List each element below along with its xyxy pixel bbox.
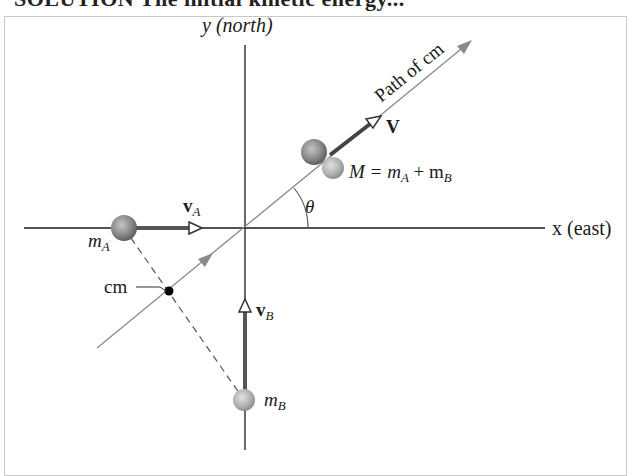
va-label: vA (183, 195, 201, 219)
path-of-cm-label: Path of cm (370, 38, 447, 106)
sphere-mb (233, 389, 255, 411)
cm-label: cm (104, 276, 127, 297)
y-axis-label: y (north) (200, 14, 273, 37)
mb-label: mB (264, 389, 286, 413)
theta-label: θ (305, 196, 314, 217)
ma-label: mA (88, 230, 110, 254)
v-label: V (386, 116, 400, 137)
sphere-combined-b (322, 157, 344, 179)
x-axis-label: x (east) (552, 217, 611, 240)
vb-label: vB (256, 299, 274, 323)
v-vector-shaft (330, 124, 370, 155)
cm-path-line (97, 45, 466, 348)
cm-leader-line (136, 287, 166, 291)
cm-path-arrowhead-icon (457, 40, 472, 54)
cm-path-mid-arrowhead-icon (198, 253, 213, 267)
sphere-ma (111, 215, 137, 241)
ma-mb-dashed-line (124, 228, 244, 400)
sphere-combined-a (301, 139, 327, 165)
total-mass-label: M = mA + mB (348, 161, 452, 185)
va-arrowhead-icon (189, 222, 202, 234)
vb-arrowhead-icon (239, 299, 251, 312)
